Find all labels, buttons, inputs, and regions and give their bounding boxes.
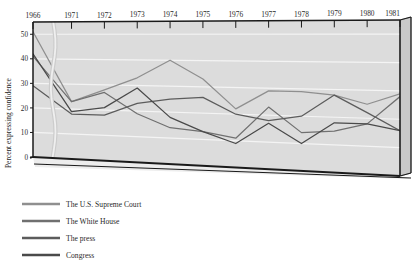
x-tick-label: 1978 (294, 10, 309, 19)
x-tick-label: 1979 (327, 9, 342, 18)
y-tick-label: 50 (21, 31, 29, 39)
x-tick-label: 1981 (385, 9, 400, 18)
y-tick-label: 0 (24, 154, 28, 162)
y-tick-label: 40 (21, 55, 29, 63)
chart-figure: 1966197119721973197419751976197719781979… (0, 0, 418, 275)
y-tick-label: 10 (21, 129, 29, 137)
x-tick-label: 1975 (196, 10, 211, 19)
x-tick-label: 1974 (163, 10, 178, 19)
y-axis-title: Percent expressing confidence (4, 77, 13, 168)
legend-label-3: Congress (66, 251, 94, 260)
x-tick-label: 1971 (64, 11, 79, 20)
line-chart-svg: 1966197119721973197419751976197719781979… (0, 0, 418, 275)
plot-area-right-wall (400, 17, 411, 176)
x-tick-label: 1966 (26, 11, 41, 20)
x-tick-label: 1973 (130, 10, 145, 19)
legend-label-2: The press (66, 234, 95, 243)
legend-label-0: The U.S. Supreme Court (66, 200, 142, 209)
legend-label-1: The White House (66, 217, 120, 226)
y-tick-label: 20 (21, 105, 29, 113)
x-tick-label: 1976 (228, 10, 243, 19)
legend: The U.S. Supreme CourtThe White HouseThe… (22, 200, 142, 260)
x-tick-label: 1977 (261, 10, 276, 19)
y-axis-tick-labels: 01020304050 (21, 31, 29, 162)
y-tick-label: 30 (21, 80, 29, 88)
x-tick-label: 1972 (97, 11, 112, 20)
x-axis-tick-labels: 1966197119721973197419751976197719781979… (26, 9, 401, 20)
x-tick-label: 1980 (360, 9, 375, 18)
